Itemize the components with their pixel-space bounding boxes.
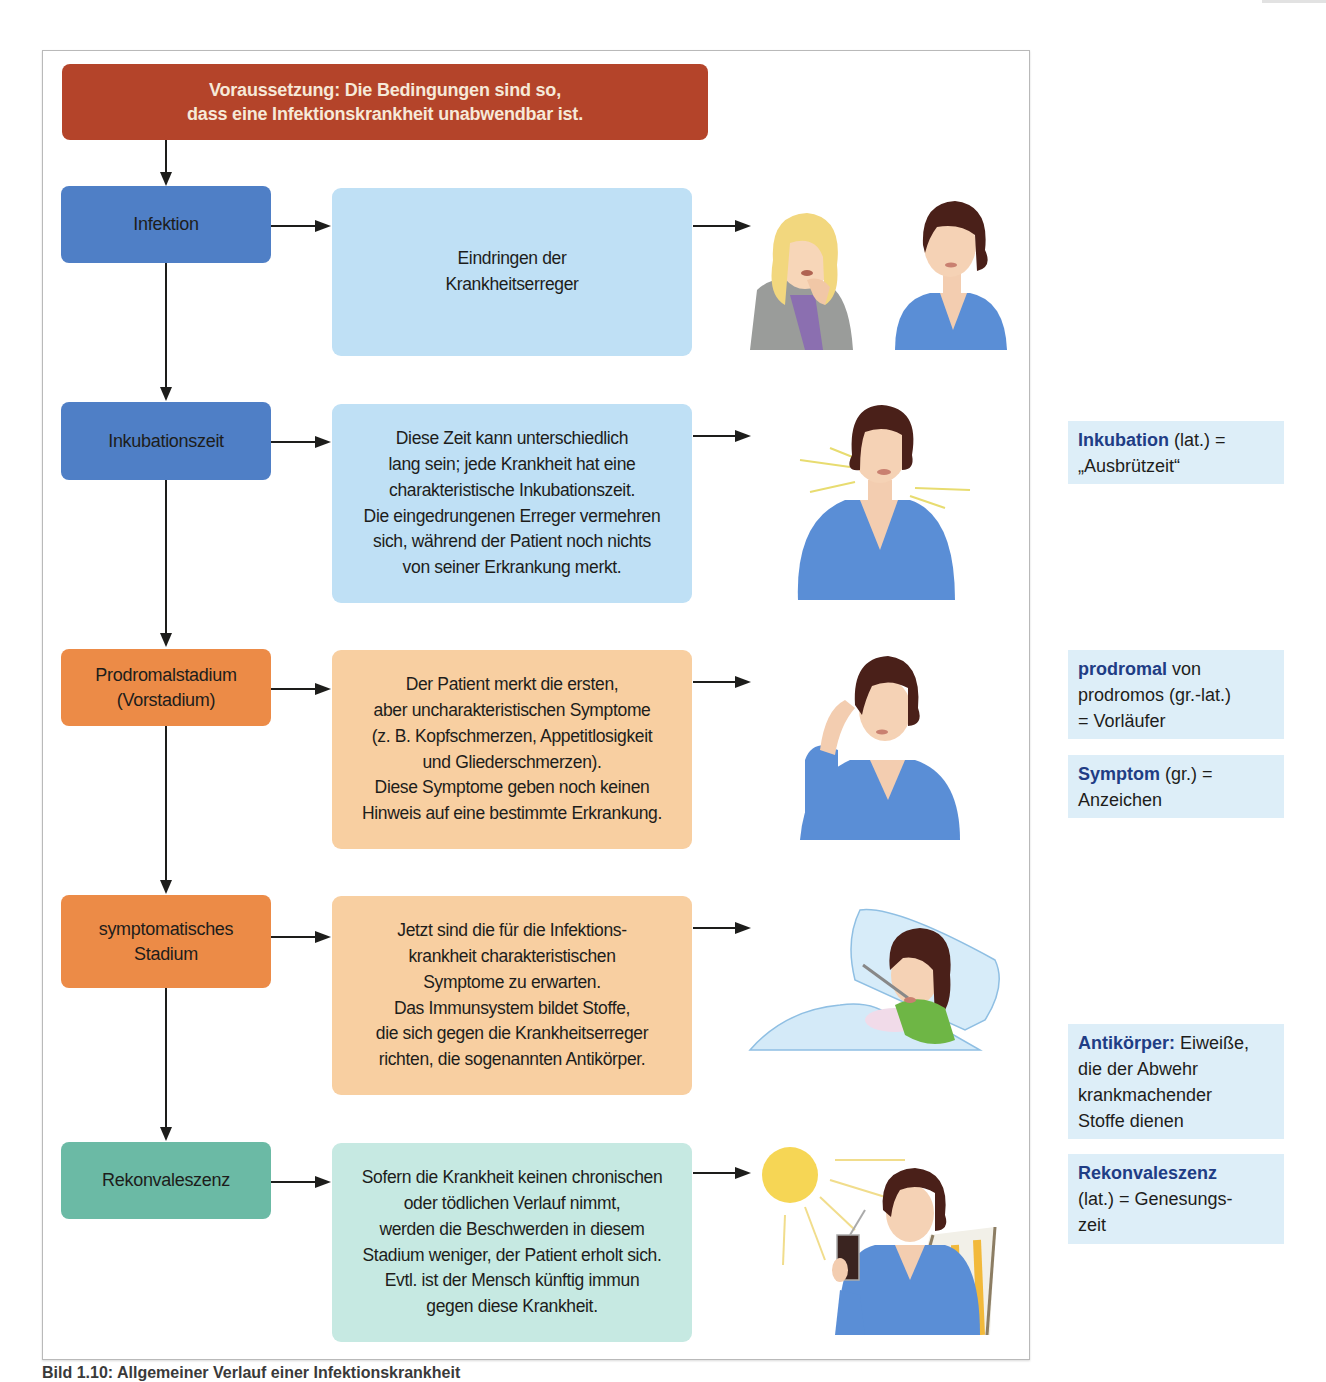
glossary-definition: (lat.) = Genesungs- (1078, 1189, 1233, 1209)
glossary-term: prodromal (1078, 659, 1167, 679)
glossary-term: Rekonvaleszenz (1078, 1163, 1217, 1183)
stage-title: Stadium (99, 942, 234, 967)
connector-line (693, 681, 737, 683)
stage-title: Inkubationszeit (108, 429, 224, 454)
connector-line (271, 688, 317, 690)
description-line: lang sein; jede Krankheit hat eine (364, 452, 661, 478)
arrow-down-icon (160, 172, 172, 186)
flow-line (165, 263, 167, 387)
stage-rekonvaleszenz: Rekonvaleszenz (61, 1142, 271, 1219)
description-line: Evtl. ist der Mensch künftig immun (362, 1268, 663, 1294)
arrow-right-icon (315, 220, 331, 232)
glossary-term: Antikörper: (1078, 1033, 1175, 1053)
flow-line (165, 480, 167, 633)
glossary-rekonvaleszenz: Rekonvaleszenz (lat.) = Genesungs- zeit (1068, 1154, 1284, 1244)
glossary-definition: Anzeichen (1078, 790, 1162, 810)
precondition-box: Voraussetzung: Die Bedingungen sind so, … (62, 64, 708, 140)
connector-line (271, 441, 317, 443)
description-line: werden die Beschwerden in diesem (362, 1217, 663, 1243)
description-line: Diese Zeit kann unterschiedlich (364, 426, 661, 452)
arrow-down-icon (160, 387, 172, 401)
description-line: Symptome zu erwarten. (376, 970, 648, 996)
description-line: (z. B. Kopfschmerzen, Appetitlosigkeit (362, 724, 662, 750)
glossary-prodromal: prodromal von prodromos (gr.-lat.) = Vor… (1068, 650, 1284, 739)
description-line: charakteristische Inkubationszeit. (364, 478, 661, 504)
glossary-definition: die der Abwehr (1078, 1059, 1198, 1079)
description-line: Der Patient merkt die ersten, (362, 672, 662, 698)
precondition-line-2: dass eine Infektionskrankheit unabwendba… (187, 102, 583, 126)
description-line: Hinweis auf eine bestimmte Erkrankung. (362, 801, 662, 827)
arrow-right-icon (735, 430, 751, 442)
precondition-line-1: Voraussetzung: Die Bedingungen sind so, (187, 78, 583, 102)
connector-line (271, 225, 317, 227)
description-line: Eindringen der (445, 246, 578, 272)
glossary-definition: (gr.) = (1160, 764, 1213, 784)
connector-line (693, 927, 737, 929)
arrow-down-icon (160, 633, 172, 647)
coughing-woman-illustration (745, 195, 1015, 350)
connector-line (271, 1181, 317, 1183)
page-corner-mark (1262, 0, 1326, 3)
description-line: oder tödlichen Verlauf nimmt, (362, 1191, 663, 1217)
glossary-symptom: Symptom (gr.) = Anzeichen (1068, 755, 1284, 818)
connector-line (271, 936, 317, 938)
description-line: aber uncharakteristischen Symptome (362, 698, 662, 724)
description-line: und Gliederschmerzen). (362, 750, 662, 776)
connector-line (693, 435, 737, 437)
arrow-right-icon (735, 676, 751, 688)
stage-title: symptomatisches (99, 917, 234, 942)
flow-line (165, 726, 167, 880)
description-line: Diese Symptome geben noch keinen (362, 775, 662, 801)
sick-in-bed-illustration (745, 900, 1015, 1055)
glossary-term: Inkubation (1078, 430, 1169, 450)
healthy-woman-illustration (780, 400, 990, 600)
stage-prodromalstadium: Prodromalstadium (Vorstadium) (61, 649, 271, 726)
arrow-right-icon (315, 931, 331, 943)
flow-line (165, 140, 167, 174)
description-line: Jetzt sind die für die Infektions- (376, 918, 648, 944)
figure-caption: Bild 1.10: Allgemeiner Verlauf einer Inf… (42, 1364, 460, 1382)
stage-description-symptomatisches-stadium: Jetzt sind die für die Infektions- krank… (332, 896, 692, 1095)
arrow-right-icon (315, 436, 331, 448)
stage-title: (Vorstadium) (95, 688, 236, 713)
stage-title: Infektion (133, 212, 198, 237)
description-line: krankheit charakteristischen (376, 944, 648, 970)
glossary-definition: zeit (1078, 1215, 1106, 1235)
flow-line (165, 988, 167, 1128)
glossary-definition: prodromos (gr.-lat.) (1078, 685, 1231, 705)
stage-symptomatisches-stadium: symptomatisches Stadium (61, 895, 271, 988)
glossary-inkubation: Inkubation (lat.) = „Ausbrützeit“ (1068, 421, 1284, 484)
stage-inkubationszeit: Inkubationszeit (61, 402, 271, 480)
glossary-term: Symptom (1078, 764, 1160, 784)
connector-line (693, 1172, 737, 1174)
description-line: von seiner Erkrankung merkt. (364, 555, 661, 581)
headache-woman-illustration (790, 650, 980, 840)
glossary-definition: krankmachender (1078, 1085, 1212, 1105)
arrow-down-icon (160, 1127, 172, 1141)
stage-description-prodromalstadium: Der Patient merkt die ersten, aber uncha… (332, 650, 692, 849)
description-line: gegen diese Krankheit. (362, 1294, 663, 1320)
description-line: die sich gegen die Krankheitserreger (376, 1021, 648, 1047)
description-line: sich, während der Patient noch nichts (364, 529, 661, 555)
description-line: Das Immunsystem bildet Stoffe, (376, 996, 648, 1022)
glossary-definition: (lat.) = (1169, 430, 1226, 450)
glossary-definition: „Ausbrützeit“ (1078, 456, 1180, 476)
description-line: Stadium weniger, der Patient erholt sich… (362, 1243, 663, 1269)
description-line: richten, die sogenannten Antikörper. (376, 1047, 648, 1073)
glossary-definition: Eiweiße, (1175, 1033, 1249, 1053)
stage-description-inkubationszeit: Diese Zeit kann unterschiedlich lang sei… (332, 404, 692, 603)
glossary-definition: Stoffe dienen (1078, 1111, 1184, 1131)
description-line: Krankheitserreger (445, 272, 578, 298)
stage-description-infektion: Eindringen der Krankheitserreger (332, 188, 692, 356)
arrow-right-icon (315, 1176, 331, 1188)
description-line: Die eingedrungenen Erreger vermehren (364, 504, 661, 530)
arrow-right-icon (735, 1167, 751, 1179)
glossary-definition: = Vorläufer (1078, 711, 1166, 731)
stage-title: Prodromalstadium (95, 663, 236, 688)
arrow-right-icon (315, 683, 331, 695)
stage-infektion: Infektion (61, 186, 271, 263)
arrow-down-icon (160, 880, 172, 894)
stage-title: Rekonvaleszenz (102, 1168, 230, 1193)
stage-description-rekonvaleszenz: Sofern die Krankheit keinen chronischen … (332, 1143, 692, 1342)
glossary-antikoerper: Antikörper: Eiweiße, die der Abwehr kran… (1068, 1024, 1284, 1139)
